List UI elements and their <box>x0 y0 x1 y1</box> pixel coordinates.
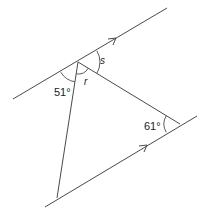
angle-51-arc <box>61 72 75 82</box>
transversal-right <box>78 62 180 124</box>
angle-r-arc <box>76 68 88 74</box>
angle-51-label: 51° <box>54 87 71 98</box>
angle-r-label: r <box>84 77 87 87</box>
angle-61-label: 61° <box>144 121 161 132</box>
geometry-figure <box>0 0 205 215</box>
angle-61-arc <box>164 116 166 133</box>
upper-parallel-line <box>13 8 167 99</box>
diagram-canvas: 51° 61° s r <box>0 0 205 215</box>
transversal-left <box>57 62 78 198</box>
angle-s-label: s <box>100 56 105 66</box>
